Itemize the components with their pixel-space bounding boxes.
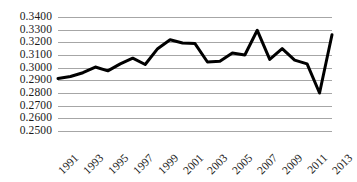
series-line-1 <box>58 30 332 93</box>
y-axis-tick-label: 0.2800 <box>20 87 52 99</box>
y-axis-tick-label: 0.3300 <box>20 24 52 36</box>
x-axis-tick-label-text: 2005 <box>231 152 255 176</box>
x-axis: 1991199319951997199920012003200520072009… <box>58 131 332 182</box>
y-axis-tick-label: 0.3100 <box>20 49 52 61</box>
y-axis-tick-label: 0.3400 <box>20 11 52 23</box>
x-axis-tick-label-text: 2013 <box>330 152 354 176</box>
series-line-group <box>58 17 332 131</box>
y-axis-tick-label: 0.3000 <box>20 62 52 74</box>
plot-area <box>58 17 332 131</box>
y-axis-tick-label: 0.2900 <box>20 75 52 87</box>
x-axis-tick-label: 2013 <box>347 136 357 160</box>
y-axis-tick-label: 0.3200 <box>20 37 52 49</box>
y-axis-tick-label: 0.2500 <box>20 125 52 137</box>
y-axis: 0.34000.33000.32000.31000.30000.29000.28… <box>0 0 56 182</box>
x-axis-tick-label-text: 1991 <box>56 152 80 176</box>
y-axis-tick-label: 0.2700 <box>20 100 52 112</box>
x-axis-tick-label-text: 2007 <box>256 152 280 176</box>
y-axis-tick-label: 0.2600 <box>20 113 52 125</box>
